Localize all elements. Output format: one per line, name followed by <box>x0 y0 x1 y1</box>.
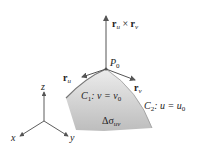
x-axis <box>20 121 44 136</box>
x-axis-label: x <box>10 132 16 143</box>
y-axis-label: y <box>69 132 75 143</box>
rv-label: rv <box>134 82 142 95</box>
point-label: P0 <box>109 57 120 70</box>
surface-diagram: ru × rv P0 ru rv C1: v = v0 C2: u = u0 Δ… <box>0 0 200 154</box>
c2-label: C2: u = u0 <box>144 100 186 113</box>
normal-label: ru × rv <box>112 18 139 31</box>
ru-label: ru <box>63 72 71 85</box>
z-axis-label: z <box>40 81 45 92</box>
y-axis <box>44 121 68 136</box>
point-p0 <box>105 68 108 71</box>
